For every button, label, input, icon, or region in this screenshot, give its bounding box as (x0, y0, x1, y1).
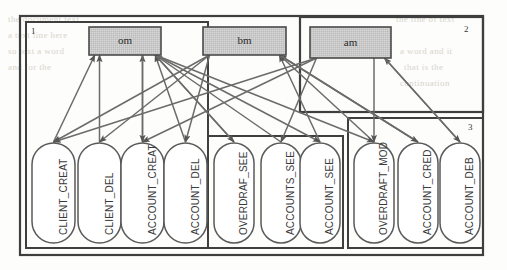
edge-am-to-uc10 (385, 58, 461, 142)
edge-bm-to-uc1 (54, 55, 210, 142)
usecase-capsule-uc10[interactable] (440, 143, 480, 243)
diagram-svg (0, 0, 507, 270)
usecase-capsule-uc8[interactable] (354, 143, 394, 243)
edge-uc6-to-om (155, 55, 281, 142)
module-box-am[interactable] (310, 27, 391, 58)
diagram-canvas: the document texta text line hereso text… (0, 0, 507, 270)
usecase-capsule-uc6[interactable] (261, 143, 301, 243)
edge-uc1-to-om (54, 55, 95, 142)
usecase-capsule-uc4[interactable] (164, 143, 207, 243)
module-layer (89, 27, 391, 58)
module-box-om[interactable] (89, 27, 161, 55)
usecase-capsule-uc7[interactable] (300, 143, 340, 243)
usecase-capsule-uc9[interactable] (398, 143, 438, 243)
edge-layer (54, 55, 461, 142)
edge-bm-to-uc2 (100, 55, 210, 142)
usecase-layer (32, 143, 480, 243)
module-box-bm[interactable] (203, 27, 286, 55)
usecase-capsule-uc2[interactable] (78, 143, 121, 243)
usecase-capsule-uc5[interactable] (214, 143, 254, 243)
usecase-capsule-uc1[interactable] (32, 143, 75, 243)
usecase-capsule-uc3[interactable] (121, 143, 164, 243)
edge-uc8-to-bm (279, 55, 374, 142)
edge-om-to-uc5 (155, 55, 234, 142)
